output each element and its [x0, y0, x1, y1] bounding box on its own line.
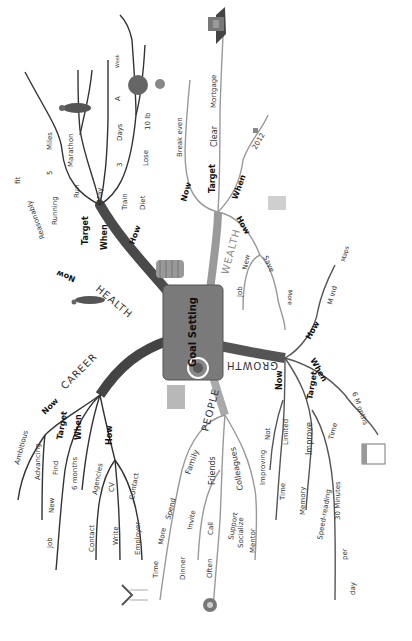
people-invite: Invite [186, 510, 197, 531]
career-find: Find [52, 461, 60, 475]
health-when: When [100, 224, 109, 250]
health-now: Now [55, 268, 77, 283]
people-family: Family [183, 448, 200, 476]
growth-per: per [341, 548, 349, 560]
growth-how: How [304, 319, 322, 341]
wealth-now: Now [179, 181, 193, 203]
wealth-when: When [230, 173, 247, 200]
health-week: Week [114, 54, 120, 68]
people-colleagues: Colleagues [228, 446, 245, 491]
health-fit: fit [14, 177, 22, 184]
wealth-subbranches [185, 20, 285, 330]
career-advancing: Advancing [34, 443, 42, 480]
health-diet: Diet [139, 195, 147, 210]
health-running: Running [51, 196, 59, 225]
career-new: New [48, 497, 56, 513]
money-icon [268, 196, 286, 210]
people-more: More [157, 527, 168, 545]
growth-label: GROWTH [226, 360, 278, 371]
health-train: Train [121, 193, 129, 211]
phone-icon [203, 598, 217, 612]
health-how: How [127, 224, 142, 246]
family-icon [167, 385, 185, 409]
people-mentor: Mentor [249, 528, 257, 553]
growth-texts: How M ind Maps When 6 M onths Now Not Im… [259, 245, 370, 595]
health-may: May [96, 188, 104, 202]
people-time: Time [152, 561, 160, 579]
center-label: Goal Setting [187, 297, 198, 367]
wealth-break-even: Break even [176, 117, 184, 157]
growth-limited: Limited [282, 419, 290, 445]
health-target: Target [81, 216, 90, 245]
growth-speed-reading: Speed-reading [316, 489, 333, 541]
health-5: 5 [46, 171, 54, 175]
growth-mind: M ind [326, 285, 339, 306]
health-reasonably: Reasonably [26, 199, 47, 240]
health-10lb: 10 lb [144, 112, 152, 130]
growth-6months: 6 M onths [350, 391, 369, 426]
growth-maps: Maps [339, 245, 351, 262]
career-texts: Now Ambitious Advancing Target Find New … [13, 396, 142, 555]
career-now: Now [40, 396, 61, 417]
career-contact2: Contact [128, 472, 141, 500]
career-contact1: Contact [88, 525, 96, 552]
people-label: PEOPLE [199, 387, 221, 432]
career-ambitious: Ambitious [13, 429, 30, 465]
growth-time2: Time [327, 422, 339, 442]
people-spend: Spend [164, 497, 177, 520]
walker-icon [72, 296, 106, 305]
scale-icon [128, 75, 165, 95]
health-3: 3 [116, 163, 124, 167]
growth-not: Not [264, 427, 272, 440]
health-marathon: Marathon [67, 134, 75, 167]
growth-time1: Time [279, 483, 287, 501]
center-node[interactable]: Goal Setting [163, 285, 223, 380]
mind-map-canvas: Goal Setting HEALTH WEALTH GROWTH PEOPLE… [0, 0, 412, 641]
career-label: CAREER [59, 351, 100, 392]
wealth-mortgage: Mortgage [210, 75, 218, 108]
wealth-texts: Now Break even Target Clear Mortgage Whe… [176, 75, 294, 306]
wealth-job: Job [236, 286, 244, 298]
calendar-icon [253, 128, 258, 133]
career-job: Job [46, 537, 54, 549]
career-when: When [74, 414, 83, 440]
growth-30min: 30 Minutes [334, 481, 342, 520]
people-often: Often [206, 559, 214, 578]
wealth-target: Target [208, 164, 217, 193]
people-subbranches [160, 415, 257, 610]
mind-map: Goal Setting HEALTH WEALTH GROWTH PEOPLE… [0, 0, 412, 641]
people-dinner: Dinner [179, 556, 187, 580]
wealth-clear: Clear [210, 125, 219, 147]
wealth-label: WEALTH [219, 227, 242, 275]
growth-improve: Improve [305, 422, 314, 455]
career-employer: Employer [134, 522, 142, 555]
coins-icon [156, 260, 184, 278]
growth-now: Now [275, 370, 284, 390]
office-icon [122, 585, 148, 605]
wealth-save: Save [261, 254, 276, 273]
people-texts: Family Spend More Time Friends Invite Di… [152, 446, 257, 580]
health-days: Days [116, 123, 124, 141]
health-run: Run [73, 185, 81, 198]
career-agencies: Agencies [91, 462, 104, 495]
growth-improving: Improving [259, 450, 267, 485]
people-call: Call [207, 522, 215, 535]
career-cv: CV [108, 482, 116, 492]
people-socialize: Socialize [237, 517, 245, 548]
book-icon [362, 444, 385, 464]
health-miles: Miles [46, 132, 54, 150]
wealth-new: New [241, 254, 252, 271]
career-6months: 6 months [71, 457, 79, 490]
career-write: Write [112, 527, 120, 545]
runner-icon [59, 103, 91, 113]
health-lose: Lose [142, 150, 150, 166]
growth-memory: Memory [299, 487, 307, 515]
growth-target: Target [305, 370, 319, 400]
career-how: How [105, 425, 114, 445]
growth-day: day [349, 582, 357, 595]
wealth-more: More [287, 290, 294, 305]
people-friends: Friends [208, 456, 217, 485]
wealth-2012: 2012 [251, 132, 267, 151]
health-a: A [114, 96, 122, 101]
career-target: Target [55, 410, 69, 440]
